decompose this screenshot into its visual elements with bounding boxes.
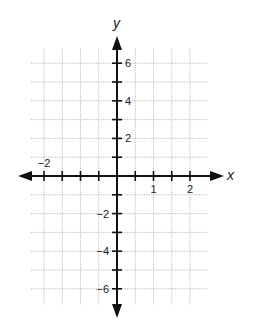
y-tick-label: −6 <box>96 283 109 295</box>
y-axis-label: y <box>112 15 121 31</box>
x-tick-label: 2 <box>187 183 193 195</box>
y-axis-down-arrow-icon <box>112 304 122 318</box>
x-tick-label: −2 <box>38 157 51 169</box>
x-axis-right-arrow-icon <box>210 171 224 181</box>
x-axis-label: x <box>226 167 235 183</box>
x-axis-left-arrow-icon <box>18 171 32 181</box>
y-axis-up-arrow-icon <box>112 36 122 50</box>
y-tick-label: −4 <box>96 245 109 257</box>
coordinate-plane: −212642−2−4−6 x y <box>0 0 253 329</box>
y-tick-label: 4 <box>125 95 131 107</box>
y-tick-label: −2 <box>96 208 109 220</box>
y-tick-label: 6 <box>125 57 131 69</box>
y-tick-label: 2 <box>125 132 131 144</box>
axes <box>18 36 224 318</box>
x-tick-label: 1 <box>150 183 156 195</box>
